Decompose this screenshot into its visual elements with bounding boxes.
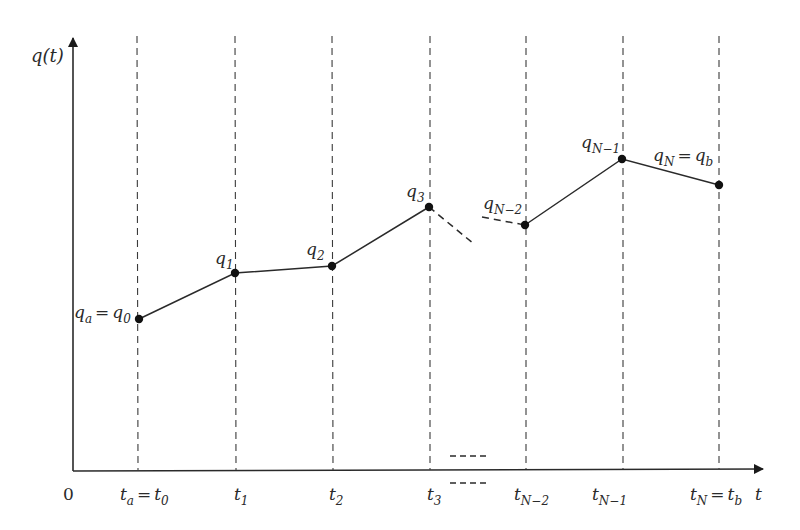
time-label-t2: t2 xyxy=(329,486,343,503)
path-point-q2 xyxy=(328,262,336,270)
path-point-q0 xyxy=(135,315,143,323)
x-axis xyxy=(73,469,763,471)
time-label-ta-t0: ta=t0 xyxy=(120,486,169,503)
point-label-q1: q1 xyxy=(215,250,234,267)
origin-label: 0 xyxy=(63,486,74,503)
point-label-main: q xyxy=(306,239,317,259)
time-label-main: t xyxy=(690,484,697,504)
time-label-main: t xyxy=(120,484,127,504)
time-label-main: t xyxy=(329,484,336,504)
x-axis-label-text: t xyxy=(755,484,762,504)
point-label-sub: N−2 xyxy=(494,203,522,217)
point-label-main: q xyxy=(215,248,226,268)
point-label-main: q xyxy=(74,302,85,322)
point-label-main: q xyxy=(483,193,494,213)
time-label-t1: t1 xyxy=(234,486,248,503)
point-label-qN-2: qN−2 xyxy=(483,195,522,212)
point-label-sub: 0 xyxy=(123,312,131,326)
path-integral-diagram xyxy=(0,0,800,530)
point-label-qN-1: qN−1 xyxy=(581,134,620,151)
path-point-qN-1 xyxy=(618,155,626,163)
x-axis-label: t xyxy=(755,486,762,503)
time-label-tN-2: tN−2 xyxy=(514,486,549,503)
path-point-qN xyxy=(715,181,723,189)
equals-sign: = xyxy=(674,145,694,165)
path-continuation-before-qN-2 xyxy=(482,217,525,225)
point-label-main: q xyxy=(695,145,706,165)
equals-sign: = xyxy=(92,302,112,322)
point-label-qN-qb: qN=qb xyxy=(653,147,713,164)
path-point-qN-2 xyxy=(521,221,529,229)
point-label-q2: q2 xyxy=(306,241,325,258)
equals-sign: = xyxy=(707,484,727,504)
time-label-tN-1: tN−1 xyxy=(592,486,627,503)
time-label-sub: a xyxy=(127,494,134,508)
origin-value: 0 xyxy=(63,484,74,504)
time-label-t3: t3 xyxy=(427,486,441,503)
point-label-sub: N xyxy=(664,155,675,169)
time-slice-guide-t2 xyxy=(332,36,333,470)
y-axis-label-main: q xyxy=(31,45,43,66)
y-axis-label-paren: (t) xyxy=(43,45,64,66)
time-label-tN-tb: tN=tb xyxy=(690,486,742,503)
path-segment-left xyxy=(139,207,429,319)
time-label-main: t xyxy=(234,484,241,504)
point-label-sub: 3 xyxy=(417,191,425,205)
time-label-sub: N−1 xyxy=(599,494,627,508)
path-segment-right xyxy=(525,159,719,225)
path-continuation-after-q3 xyxy=(429,207,474,244)
point-label-qa-q0: qa=q0 xyxy=(74,304,131,321)
point-label-main: q xyxy=(406,181,417,201)
time-label-sub: N xyxy=(697,494,708,508)
time-label-main: t xyxy=(592,484,599,504)
path-point-q3 xyxy=(425,203,433,211)
time-label-sub: 2 xyxy=(336,494,344,508)
point-label-q3: q3 xyxy=(406,183,425,200)
point-label-sub: N−1 xyxy=(592,142,620,156)
point-label-sub: b xyxy=(706,155,714,169)
time-slice-guide-t0 xyxy=(137,36,138,470)
point-label-main: q xyxy=(653,145,664,165)
time-label-sub: 0 xyxy=(161,494,169,508)
point-label-sub: 1 xyxy=(226,258,234,272)
time-slice-guide-t1 xyxy=(235,36,236,470)
time-label-sub: 1 xyxy=(241,494,249,508)
point-label-sub: 2 xyxy=(317,249,325,263)
point-label-main: q xyxy=(112,302,123,322)
time-label-sub: N−2 xyxy=(521,494,549,508)
point-label-sub: a xyxy=(85,312,92,326)
point-label-main: q xyxy=(581,132,592,152)
equals-sign: = xyxy=(134,484,154,504)
time-label-sub: 3 xyxy=(434,494,442,508)
time-label-main: t xyxy=(514,484,521,504)
y-axis-label: q(t) xyxy=(31,47,64,65)
time-label-sub: b xyxy=(734,494,742,508)
time-label-main: t xyxy=(427,484,434,504)
